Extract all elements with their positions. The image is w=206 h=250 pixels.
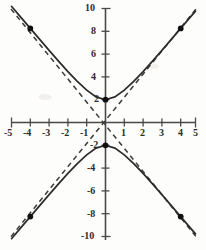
y-tick-label-8: 8 [91,26,96,36]
y-tick-label--4: -4 [87,163,95,173]
y-tick-label-10: 10 [85,3,95,13]
hyperbola-graph-figure: -5 -4 -3 -2 -1 1 2 3 4 5 10 8 6 4 2 -2 -… [0,0,206,250]
y-tick-label-2: 2 [94,94,99,104]
x-tick-label--3: -3 [42,128,50,138]
plot-canvas [0,0,206,250]
x-tick-label--1: -1 [80,128,88,138]
data-point-marker [27,214,33,220]
x-tick-label-5: 5 [193,128,198,138]
data-point-marker [178,214,184,220]
data-point-marker [27,26,33,32]
x-tick-label--5: -5 [4,128,12,138]
data-point-marker [178,26,184,32]
lower-branch-curve [12,145,196,238]
x-tick-label--2: -2 [61,128,69,138]
upper-branch-curve [12,6,196,99]
y-tick-label--10: -10 [81,231,94,241]
y-tick-label--2: -2 [90,140,98,150]
data-point-marker [103,142,109,148]
y-tick-label-6: 6 [91,49,96,59]
x-tick-label-2: 2 [140,128,145,138]
x-tick-label-4: 4 [178,128,183,138]
x-tick-label-1: 1 [121,128,126,138]
y-tick-label-4: 4 [91,72,96,82]
data-point-marker [103,97,109,103]
y-tick-label--6: -6 [87,186,95,196]
x-tick-label-3: 3 [159,128,164,138]
x-tick-label--4: -4 [23,128,31,138]
y-tick-label--8: -8 [87,209,95,219]
